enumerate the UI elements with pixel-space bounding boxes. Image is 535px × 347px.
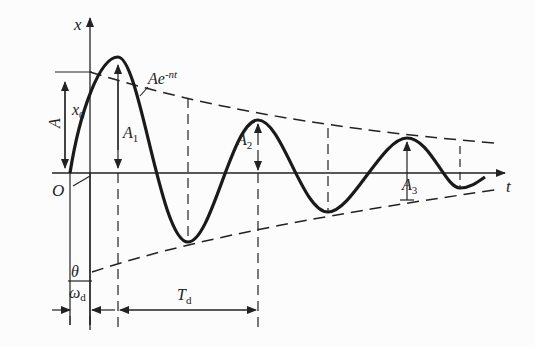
x-axis-label: x [73,15,82,34]
x0-label: x0 [71,101,85,121]
amplitude-label: A [46,118,63,129]
damped-curve [70,57,485,242]
origin-marker [73,176,90,186]
period-label: Td [177,286,192,306]
A2-label: A2 [236,131,252,151]
origin-label: O [52,181,64,200]
omega-d-label: ωd [69,284,86,303]
theta-label: θ [71,263,79,280]
A1-label: A1 [122,124,138,144]
lower-envelope [92,190,495,272]
diagram-canvas: x t O Ae-nt A x0 A1 A2 A3 θ ωd Td [0,0,535,347]
damped-vibration-diagram: x t O Ae-nt A x0 A1 A2 A3 θ ωd Td [0,0,535,347]
envelope-label: Ae-nt [147,68,178,87]
t-axis-label: t [506,177,512,196]
A3-label: A3 [401,176,418,196]
